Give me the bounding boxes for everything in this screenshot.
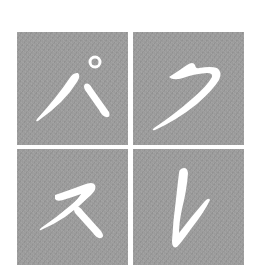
katakana-pa-glyph <box>17 32 128 145</box>
tile-su: ス <box>17 149 128 265</box>
katakana-re-glyph <box>133 149 244 265</box>
tile-ku: ク <box>133 32 244 145</box>
katakana-su-glyph <box>17 149 128 265</box>
tile-pa: パ <box>17 32 128 145</box>
katakana-ku-glyph <box>133 32 244 145</box>
character-tile-grid: パ ク ス レ パズル <box>17 32 244 265</box>
tile-re: レ <box>133 149 244 265</box>
